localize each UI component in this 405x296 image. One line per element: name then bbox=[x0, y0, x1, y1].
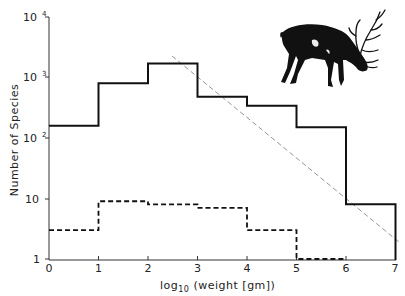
dashed-series-line bbox=[49, 201, 346, 259]
y-tick-label: 10 bbox=[23, 132, 37, 145]
x-tick-label: 1 bbox=[95, 262, 102, 275]
x-axis-title-rest: (weight [gm]) bbox=[189, 279, 275, 292]
y-tick-label: 10 bbox=[23, 71, 37, 84]
y-tick-exponent: 3 bbox=[42, 70, 46, 78]
y-tick-label: 10 bbox=[25, 193, 39, 206]
x-tick-label: 3 bbox=[194, 262, 201, 275]
y-tick-labels: 1 10 10 2 10 3 10 4 bbox=[23, 10, 47, 266]
x-tick-label: 6 bbox=[343, 262, 350, 275]
y-tick-label: 1 bbox=[33, 253, 40, 266]
elk-illustration bbox=[280, 10, 385, 87]
solid-series-line bbox=[49, 64, 396, 260]
x-tick-label: 0 bbox=[46, 262, 53, 275]
y-tick-exponent: 2 bbox=[42, 131, 46, 139]
x-axis-title-subscript: 10 bbox=[178, 285, 189, 294]
x-axis-title-prefix: log bbox=[160, 279, 178, 292]
x-tick-label: 7 bbox=[392, 262, 399, 275]
y-axis-title: Number of Species bbox=[8, 84, 21, 197]
species-weight-chart: 1 10 10 2 10 3 10 4 0 1 2 3 4 5 6 7 log1… bbox=[0, 0, 405, 296]
y-tick-label: 10 bbox=[23, 11, 37, 24]
x-tick-label: 2 bbox=[145, 262, 152, 275]
x-tick-labels: 0 1 2 3 4 5 6 7 bbox=[46, 262, 399, 275]
y-tick-exponent: 4 bbox=[42, 10, 47, 18]
reference-slope-line bbox=[172, 56, 399, 242]
x-tick-label: 5 bbox=[293, 262, 300, 275]
x-tick-label: 4 bbox=[244, 262, 251, 275]
x-axis-title: log10 (weight [gm]) bbox=[160, 279, 275, 294]
